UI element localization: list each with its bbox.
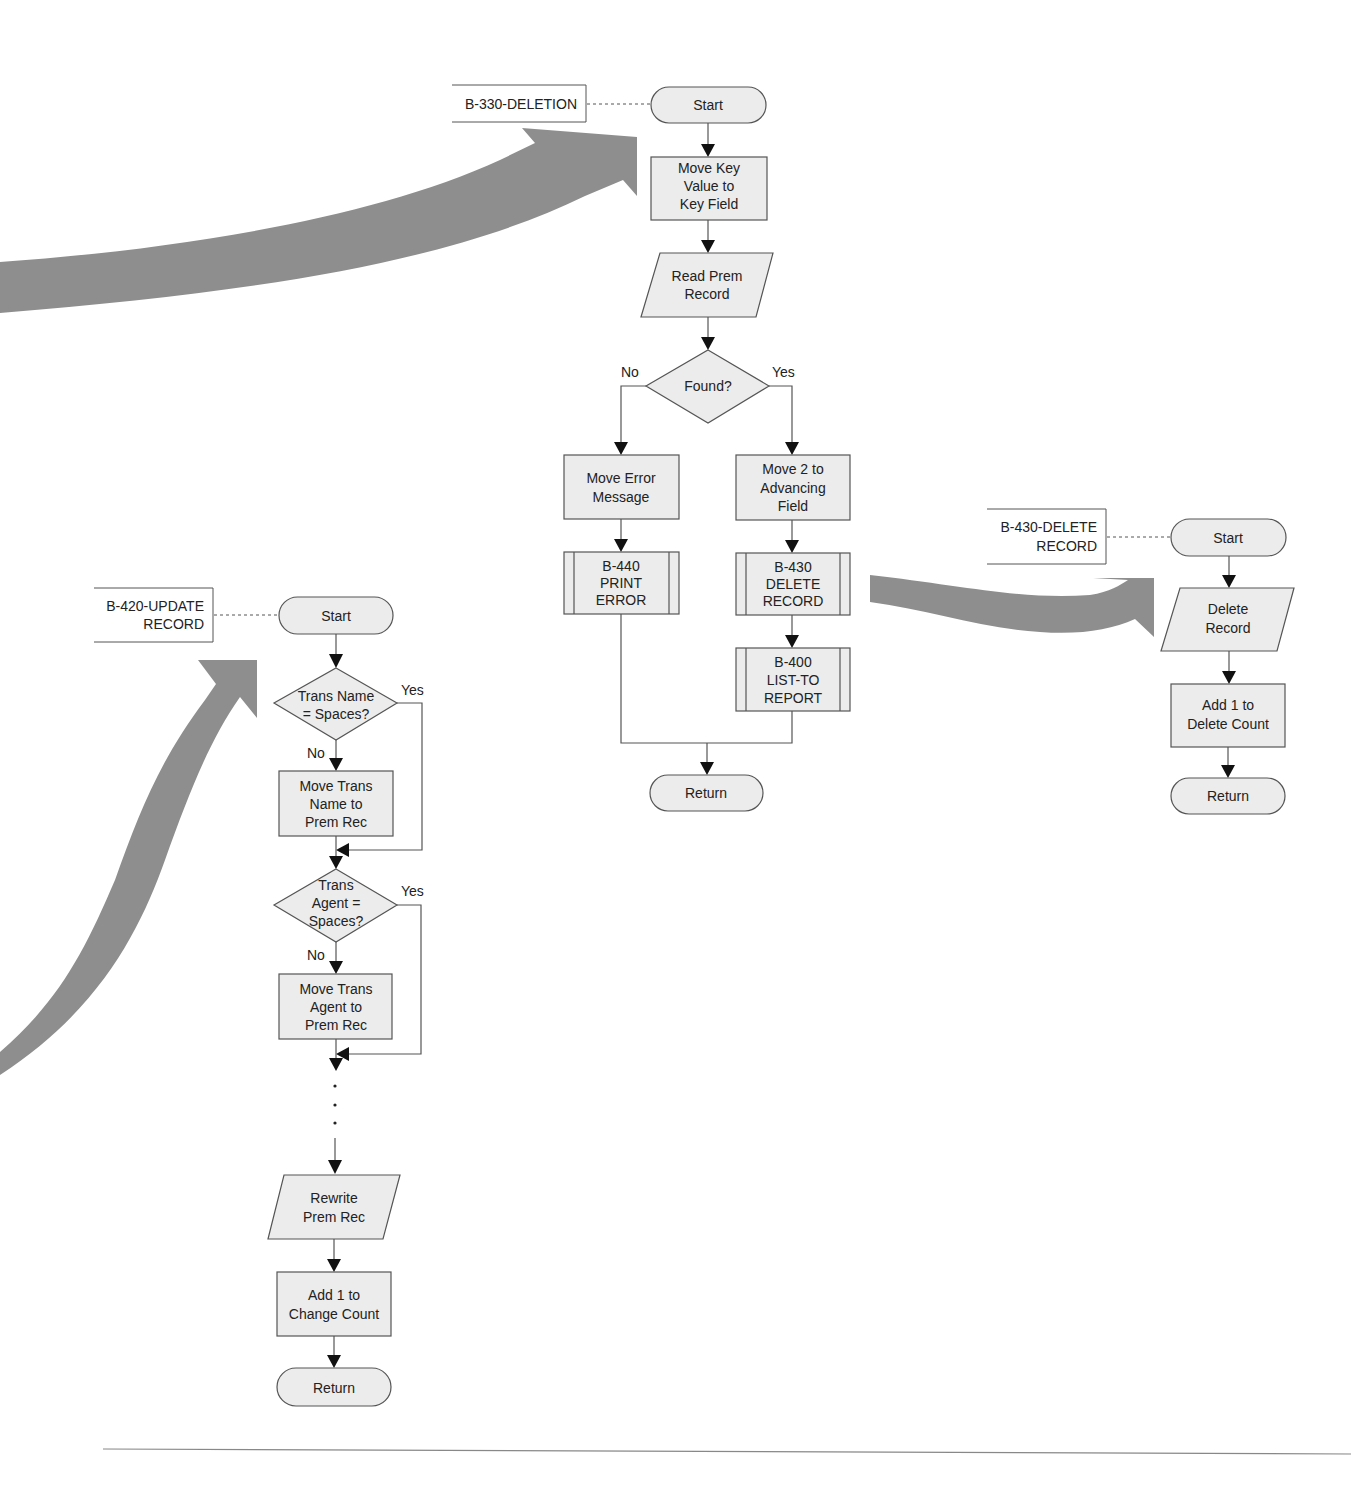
flowchart-canvas: B-330-DELETION Start Move Key Value to K… (0, 0, 1371, 1492)
svg-text:Move Key: Move Key (678, 160, 740, 176)
procedure-name-box (987, 509, 1106, 564)
connector-arrow-to-deletion (0, 128, 637, 313)
connector-arrow-to-update (0, 660, 257, 1075)
svg-text:Move Error: Move Error (586, 470, 656, 486)
connector-arrow-to-delete-record (870, 575, 1154, 637)
procedure-name-box (94, 588, 213, 642)
arrow-head-icon (785, 540, 799, 553)
svg-text:B-440: B-440 (602, 558, 640, 574)
svg-text:Rewrite: Rewrite (310, 1190, 358, 1206)
svg-text:Trans: Trans (318, 877, 353, 893)
svg-text:Move Trans: Move Trans (299, 778, 372, 794)
yes-label: Yes (401, 883, 424, 899)
svg-text:Spaces?: Spaces? (309, 913, 364, 929)
continuation-ellipsis (333, 1084, 336, 1124)
arrow-head-icon (329, 856, 343, 869)
svg-text:Name to: Name to (310, 796, 363, 812)
arrow-head-icon (327, 1259, 341, 1272)
svg-text:Message: Message (593, 489, 650, 505)
svg-text:Trans Name: Trans Name (298, 688, 375, 704)
arrow-head-icon (1222, 575, 1236, 588)
io-read-prem-record (641, 253, 773, 317)
arrow-head-icon (700, 762, 714, 775)
svg-text:Read Prem: Read Prem (672, 268, 743, 284)
arrow-head-icon (1222, 671, 1236, 684)
start-label: Start (321, 608, 351, 624)
svg-text:Add 1 to: Add 1 to (308, 1287, 360, 1303)
svg-text:Change Count: Change Count (289, 1306, 379, 1322)
decision-trans-name-spaces (274, 668, 397, 740)
svg-text:Delete: Delete (1208, 601, 1249, 617)
svg-text:Add 1 to: Add 1 to (1202, 697, 1254, 713)
arrow-head-icon (329, 1058, 343, 1071)
yes-label: Yes (401, 682, 424, 698)
arrow-head-icon (701, 144, 715, 157)
return-label: Return (313, 1380, 355, 1396)
svg-text:DELETE: DELETE (766, 576, 820, 592)
svg-text:B-400: B-400 (774, 654, 812, 670)
svg-text:PRINT: PRINT (600, 575, 642, 591)
arrow-head-icon (614, 442, 628, 455)
svg-text:B-430: B-430 (774, 559, 812, 575)
arrow-head-icon (329, 654, 343, 668)
return-label: Return (685, 785, 727, 801)
svg-text:= Spaces?: = Spaces? (303, 706, 370, 722)
procedure-name: B-330-DELETION (465, 96, 577, 112)
procedure-name-line-2: RECORD (143, 616, 204, 632)
process-move-error-message (564, 455, 679, 519)
svg-text:Advancing: Advancing (760, 480, 825, 496)
arrow-head-icon (701, 240, 715, 253)
svg-text:REPORT: REPORT (764, 690, 823, 706)
svg-text:ERROR: ERROR (596, 592, 647, 608)
arrow-head-icon (329, 961, 343, 974)
no-label: No (307, 947, 325, 963)
process-add-change-count (277, 1272, 391, 1336)
return-label: Return (1207, 788, 1249, 804)
arrow-head-icon (614, 539, 628, 552)
svg-text:Prem Rec: Prem Rec (305, 814, 367, 830)
procedure-name-line-2: RECORD (1036, 538, 1097, 554)
svg-text:Agent to: Agent to (310, 999, 362, 1015)
no-label: No (307, 745, 325, 761)
svg-text:Delete Count: Delete Count (1187, 716, 1269, 732)
start-label: Start (693, 97, 723, 113)
flowchart-update-record: B-420-UPDATE RECORD Start Trans Name = S… (94, 588, 424, 1406)
arrow-head-icon (329, 758, 343, 771)
procedure-name-line-1: B-430-DELETE (1001, 519, 1097, 535)
arrow-head-icon (328, 1160, 342, 1174)
yes-label: Yes (772, 364, 795, 380)
arrow-head-icon (336, 843, 349, 857)
svg-text:Prem Rec: Prem Rec (305, 1017, 367, 1033)
svg-text:Record: Record (1205, 620, 1250, 636)
svg-text:Agent =: Agent = (312, 895, 361, 911)
arrow-head-icon (327, 1355, 341, 1368)
svg-text:Prem Rec: Prem Rec (303, 1209, 365, 1225)
svg-text:Found?: Found? (684, 378, 732, 394)
svg-text:RECORD: RECORD (763, 593, 824, 609)
flowchart-delete-record: B-430-DELETE RECORD Start Delete Record … (987, 509, 1294, 814)
svg-text:Value to: Value to (684, 178, 735, 194)
svg-text:Move 2 to: Move 2 to (762, 461, 824, 477)
io-rewrite-prem-rec (268, 1175, 400, 1239)
arrow-head-icon (785, 442, 799, 455)
svg-text:Field: Field (778, 498, 808, 514)
arrow-head-icon (701, 337, 715, 350)
arrow-head-icon (1221, 765, 1235, 778)
svg-text:Record: Record (684, 286, 729, 302)
svg-text:LIST-TO: LIST-TO (767, 672, 820, 688)
page-rule (103, 1449, 1351, 1454)
svg-text:Key Field: Key Field (680, 196, 738, 212)
arrow-head-icon (785, 635, 799, 648)
svg-text:Move Trans: Move Trans (299, 981, 372, 997)
no-label: No (621, 364, 639, 380)
procedure-name-line-1: B-420-UPDATE (106, 598, 204, 614)
start-label: Start (1213, 530, 1243, 546)
